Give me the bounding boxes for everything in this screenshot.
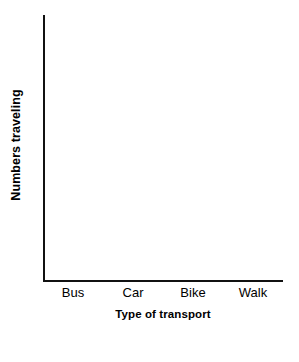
bar-chart-figure: Numbers traveling Bus Car Bike Walk Type… [0, 0, 299, 362]
y-axis-title: Numbers traveling [7, 65, 25, 225]
x-axis-line [43, 280, 283, 282]
x-tick-label-bike: Bike [163, 284, 223, 302]
x-tick-label-bus: Bus [43, 284, 103, 302]
x-tick-label-car: Car [103, 284, 163, 302]
y-axis-line [43, 15, 45, 282]
x-axis-title: Type of transport [43, 306, 283, 322]
x-tick-label-group: Bus Car Bike Walk [43, 284, 283, 302]
x-tick-label-walk: Walk [223, 284, 283, 302]
plot-area [45, 15, 283, 280]
